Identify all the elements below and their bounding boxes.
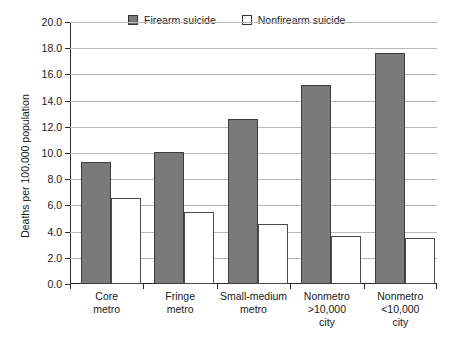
x-axis-label-line: Fringe [143, 290, 216, 303]
bar-group [290, 22, 363, 284]
bar [258, 224, 288, 284]
x-axis-label-line: >10,000 [290, 303, 363, 316]
x-axis-label-line: metro [143, 303, 216, 316]
bar [184, 212, 214, 284]
x-axis-labels: CoremetroFringemetroSmall-mediummetroNon… [70, 290, 437, 329]
y-tick-label: 6.0 [47, 199, 62, 211]
x-axis-label: Small-mediummetro [217, 290, 290, 329]
x-tick-mark [364, 284, 365, 289]
bar-series-container [70, 22, 437, 284]
bar-group [364, 22, 437, 284]
x-axis-label: Nonmetro<10,000city [364, 290, 437, 329]
x-axis-label-line: Small-medium [217, 290, 290, 303]
x-axis-label-line: Nonmetro [290, 290, 363, 303]
bar [301, 85, 331, 284]
bar [111, 198, 141, 284]
y-tick-label: 16.0 [42, 68, 62, 80]
x-axis-label-line: metro [217, 303, 290, 316]
x-axis-label-line: city [290, 316, 363, 329]
bar [154, 152, 184, 284]
y-tick-label: 2.0 [47, 252, 62, 264]
bar [331, 236, 361, 284]
bar-chart: Firearm suicide Nonfirearm suicide Death… [0, 0, 451, 339]
bar-group [70, 22, 143, 284]
x-axis-label: Coremetro [70, 290, 143, 329]
x-axis-label-line: Nonmetro [364, 290, 437, 303]
x-tick-mark [290, 284, 291, 289]
bar [81, 162, 111, 284]
x-tick-mark [217, 284, 218, 289]
bar [375, 53, 405, 284]
bar [228, 119, 258, 284]
x-axis-label-line: <10,000 [364, 303, 437, 316]
y-axis-title: Deaths per 100,000 population [19, 66, 31, 266]
x-tick-mark [70, 284, 71, 289]
x-axis-label-line: city [364, 316, 437, 329]
y-tick-label: 12.0 [42, 121, 62, 133]
y-tick-label: 10.0 [42, 147, 62, 159]
x-axis-label: Fringemetro [143, 290, 216, 329]
y-tick-label: 14.0 [42, 95, 62, 107]
x-axis-label-line: Core [70, 290, 143, 303]
bar-group [217, 22, 290, 284]
x-tick-mark [143, 284, 144, 289]
plot-area: 0.02.04.06.08.010.012.014.016.018.020.0 [70, 22, 437, 284]
x-tick-mark [436, 284, 437, 289]
y-tick-label: 0.0 [47, 278, 62, 290]
x-axis-label-line: metro [70, 303, 143, 316]
x-axis-label: Nonmetro>10,000city [290, 290, 363, 329]
y-tick-label: 18.0 [42, 42, 62, 54]
bar [405, 238, 435, 284]
y-tick-label: 8.0 [47, 173, 62, 185]
bar-group [143, 22, 216, 284]
y-tick-label: 20.0 [42, 16, 62, 28]
y-tick-label: 4.0 [47, 226, 62, 238]
